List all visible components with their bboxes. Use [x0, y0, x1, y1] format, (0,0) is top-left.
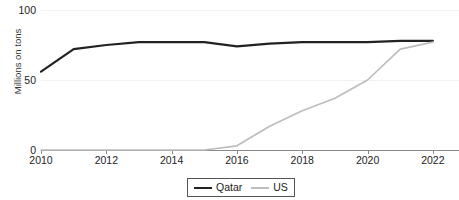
legend-label-us: US [273, 182, 288, 193]
series-line-qatar [41, 41, 433, 72]
legend-swatch-qatar [194, 187, 212, 189]
legend-swatch-us [251, 187, 269, 189]
series-line-us [41, 42, 433, 150]
line-chart: Millions on tons 050100 2010201220142016… [0, 0, 459, 200]
legend-item-qatar: Qatar [194, 182, 242, 193]
legend-label-qatar: Qatar [216, 182, 242, 193]
chart-legend: Qatar US [187, 178, 295, 197]
legend-item-us: US [251, 182, 288, 193]
plot-area [0, 0, 459, 200]
